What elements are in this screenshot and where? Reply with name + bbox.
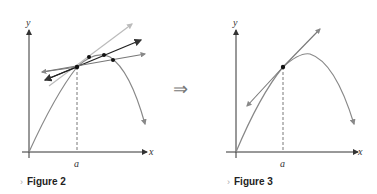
figure-3-graph: [226, 29, 358, 158]
chevron-right-icon: ›: [20, 177, 23, 187]
implies-arrow: ⇒: [173, 78, 188, 100]
svg-text:x: x: [357, 146, 363, 157]
secant-light: [49, 24, 132, 86]
svg-text:a: a: [74, 158, 79, 169]
point-a: [75, 65, 79, 69]
curve: [236, 54, 354, 152]
y-label: y: [25, 17, 31, 28]
diagram-canvas: y x a y x a: [0, 0, 377, 194]
point-a: [281, 65, 285, 69]
svg-text:x: x: [148, 146, 154, 157]
tangent-line: [283, 29, 320, 67]
chevron-right-icon: ›: [227, 177, 230, 187]
figure-3-caption: ›Figure 3: [227, 176, 273, 187]
figure-2-graph: [22, 24, 147, 158]
figure-2-caption: ›Figure 2: [20, 176, 66, 187]
svg-text:a: a: [280, 158, 285, 169]
svg-text:y: y: [232, 17, 238, 28]
curve: [29, 55, 145, 152]
